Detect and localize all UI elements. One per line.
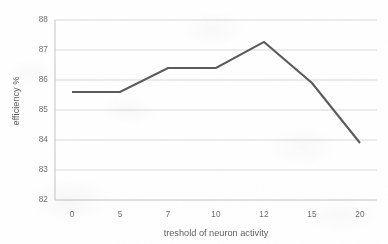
x-tick-label-0: 0 bbox=[52, 210, 92, 219]
gridlines bbox=[55, 20, 377, 170]
x-axis-title: treshold of neuron activity bbox=[55, 228, 377, 238]
x-tick-label-5: 5 bbox=[100, 210, 140, 219]
chart-plot-area bbox=[0, 0, 388, 244]
y-tick-label-88: 88 bbox=[14, 15, 48, 24]
x-tick-label-12: 12 bbox=[244, 210, 284, 219]
y-tick-label-87: 87 bbox=[14, 45, 48, 54]
x-tick-label-20: 20 bbox=[340, 210, 380, 219]
y-tick-label-83: 83 bbox=[14, 165, 48, 174]
line-chart: 88 87 86 85 84 83 82 0 5 7 10 12 15 20 e… bbox=[0, 0, 388, 244]
x-tick-label-7: 7 bbox=[148, 210, 188, 219]
x-tick-label-15: 15 bbox=[292, 210, 332, 219]
data-series-line bbox=[72, 42, 360, 143]
x-tick-label-10: 10 bbox=[196, 210, 236, 219]
y-tick-label-82: 82 bbox=[14, 195, 48, 204]
y-axis-title: efficiency % bbox=[11, 64, 21, 138]
